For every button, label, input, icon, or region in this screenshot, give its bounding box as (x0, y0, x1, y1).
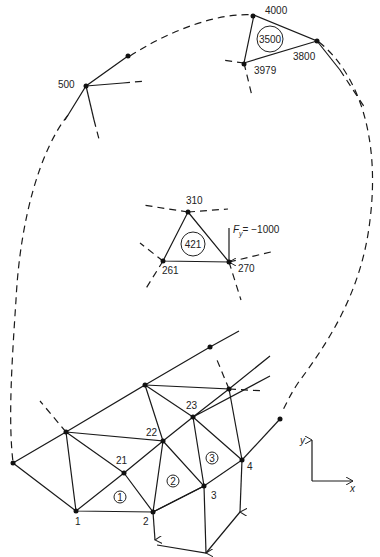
x-axis-label: x (349, 483, 356, 494)
element-label: 2 (170, 476, 176, 487)
fem-mesh-diagram: 3500 4000 3800 3979 500 421 310 270 261 … (0, 0, 380, 557)
node-label: 2 (143, 516, 149, 527)
y-axis-label: y (299, 435, 306, 446)
node-label: 310 (186, 195, 203, 206)
element-421: 421 310 270 261 Fy= −1000 (140, 195, 280, 300)
node-label: 270 (238, 263, 255, 274)
node-label: 21 (116, 455, 128, 466)
node-label: 3 (211, 490, 217, 501)
node-label: 23 (186, 400, 198, 411)
node-label: 1 (75, 516, 81, 527)
node-label: 4 (247, 461, 253, 472)
element-3500: 3500 4000 3800 3979 (222, 5, 365, 108)
node-label: 261 (162, 265, 179, 276)
node-label: 4000 (265, 5, 288, 16)
node-label: 3800 (293, 51, 316, 62)
element-label: 3 (209, 453, 215, 464)
node-label: 500 (58, 79, 75, 90)
element-label: 3500 (259, 34, 282, 45)
node-500: 500 (58, 54, 145, 144)
coordinate-axes: y x (299, 435, 356, 494)
element-label: 421 (185, 239, 202, 250)
element-label: 1 (117, 492, 123, 503)
load-label: Fy= −1000 (233, 224, 280, 238)
bottom-mesh: 1 2 3 4 21 22 23 1 2 3 (11, 331, 283, 553)
node-label: 3979 (254, 65, 277, 76)
node-label: 22 (146, 427, 158, 438)
